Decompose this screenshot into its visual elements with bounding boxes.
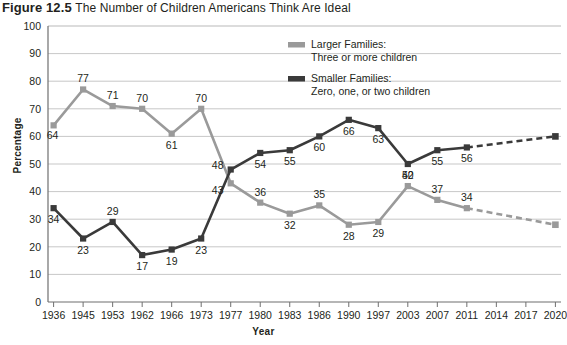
data-point-label: 34 [461,191,473,203]
x-tick-label: 1936 [42,309,66,321]
y-tick-label: 0 [35,296,41,308]
y-tick-label: 20 [29,241,41,253]
series-projection-smaller [467,136,556,147]
y-tick-label: 40 [29,185,41,197]
data-point-label: 34 [48,213,60,225]
data-point-marker [169,246,175,252]
data-point-marker [51,205,57,211]
data-point-marker [316,202,322,208]
data-point-label: 17 [136,260,148,272]
data-point-label: 70 [136,92,148,104]
x-tick-label: 2003 [396,309,420,321]
data-point-label: 70 [195,92,207,104]
legend-swatch-smaller [288,76,305,82]
data-point-marker [346,117,352,123]
data-point-marker [316,133,322,139]
data-point-marker [80,235,86,241]
series-projection-larger [467,208,556,225]
legend-label-smaller-line1: Smaller Families: [311,72,392,84]
data-point-label: 19 [166,255,178,267]
y-tick-label: 90 [29,47,41,59]
x-tick-label: 2017 [514,309,538,321]
data-point-marker [346,222,352,228]
data-point-label: 36 [254,186,266,198]
data-point-label: 37 [431,183,443,195]
data-point-label: 55 [284,155,296,167]
data-point-marker [228,180,234,186]
legend-label-larger-line1: Larger Families: [311,38,386,50]
x-tick-label: 1953 [101,309,125,321]
data-point-label: 64 [47,129,59,141]
data-point-label: 29 [372,227,384,239]
series-lines [54,89,556,255]
x-tick-label: 1980 [249,309,273,321]
data-point-label: 28 [343,230,355,242]
x-tick-marks [54,302,556,307]
data-point-label: 55 [431,155,443,167]
data-point-label: 23 [77,244,89,256]
data-point-marker [434,197,440,203]
data-point-marker [169,131,175,137]
data-point-marker [139,106,145,112]
y-tick-label: 80 [29,75,41,87]
point-value-labels: 6477717061704336323528294237343423291719… [47,72,473,272]
data-point-marker [198,235,204,241]
data-point-label: 71 [107,89,119,101]
data-point-marker [110,219,116,225]
x-tick-labels: 1936194519531962196619731977198019831986… [42,309,567,321]
data-point-label: 23 [195,244,207,256]
x-tick-label: 2020 [544,309,567,321]
series-markers [51,86,559,258]
data-point-marker [80,86,86,92]
data-point-label: 29 [107,205,119,217]
x-tick-label: 2011 [456,309,479,321]
x-tick-label: 1997 [367,309,391,321]
data-point-marker [198,106,204,112]
legend-label-larger-line2: Three or more children [311,51,417,63]
data-point-marker [464,205,470,211]
data-point-marker [257,150,263,156]
data-point-marker [139,252,145,258]
x-tick-label: 1986 [308,309,332,321]
data-point-marker-projected [552,133,559,140]
x-tick-label: 2007 [426,309,450,321]
x-tick-label: 1962 [130,309,154,321]
data-point-marker [375,219,381,225]
legend-label-smaller-line2: Zero, one, or two children [311,85,430,97]
data-point-marker [464,144,470,150]
x-tick-label: 1973 [190,309,214,321]
data-point-label: 63 [372,133,384,145]
x-tick-label: 2014 [485,309,509,321]
data-point-marker [287,147,293,153]
y-tick-label: 100 [23,20,41,32]
data-point-label: 35 [313,188,325,200]
data-point-marker [228,166,234,172]
y-tick-label: 50 [29,158,41,170]
data-point-label: 56 [461,152,473,164]
data-point-label: 50 [402,169,414,181]
data-point-marker-projected [552,221,559,228]
x-tick-label: 1966 [160,309,184,321]
data-point-label: 66 [343,125,355,137]
data-point-label: 61 [166,139,178,151]
data-point-label: 54 [254,158,266,170]
chart-legend[interactable]: Larger Families:Three or more childrenSm… [288,38,430,97]
x-tick-label: 1990 [337,309,361,321]
data-point-marker [110,103,116,109]
data-point-label: 77 [77,72,89,84]
y-tick-label: 60 [29,130,41,142]
y-tick-labels: 0102030405060708090100 [23,20,41,308]
y-tick-label: 30 [29,213,41,225]
data-point-label: 48 [212,159,224,171]
data-point-label: 32 [284,219,296,231]
data-point-marker [434,147,440,153]
data-point-label: 43 [212,184,224,196]
y-tick-label: 10 [29,268,41,280]
x-tick-label: 1977 [219,309,243,321]
figure-container: Figure 12.5 The Number of Children Ameri… [0,0,567,345]
data-point-marker [375,125,381,131]
data-point-marker [405,183,411,189]
data-point-marker [51,122,57,128]
data-point-marker [287,211,293,217]
data-point-marker [405,161,411,167]
